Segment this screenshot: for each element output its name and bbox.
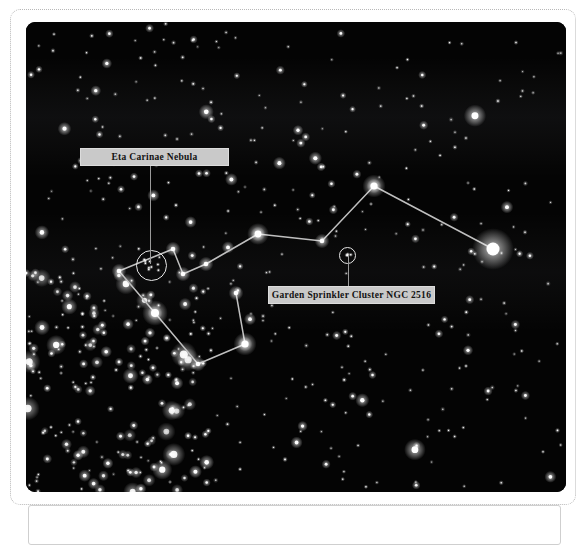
sky-figure: Eta Carinae Nebula Garden Sprinkler Clus…	[26, 22, 566, 492]
garden-sprinkler-cluster-label[interactable]: Garden Sprinkler Cluster NGC 2516	[268, 286, 435, 304]
eta-carinae-leader-line	[150, 166, 151, 264]
sky-canvas	[26, 22, 566, 492]
eta-carinae-nebula-marker-icon[interactable]	[136, 250, 167, 281]
eta-carinae-nebula-label[interactable]: Eta Carinae Nebula	[80, 148, 229, 166]
garden-sprinkler-leader-line	[348, 256, 349, 286]
bottom-panel	[28, 505, 561, 545]
